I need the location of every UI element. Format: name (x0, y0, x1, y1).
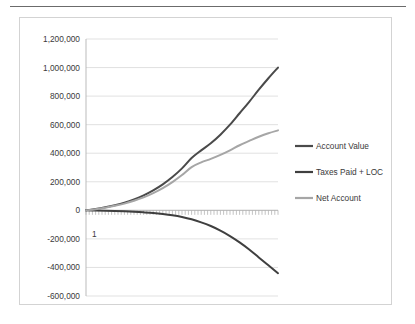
y-tick-label: -600,000 (47, 291, 80, 301)
y-tick-label: 1,200,000 (43, 34, 80, 44)
y-tick-label: 0 (75, 205, 80, 215)
y-tick-label: 400,000 (50, 148, 80, 158)
x-axis-tick-labels: 1 (92, 229, 97, 239)
y-tick-label: 600,000 (50, 120, 80, 130)
chart-page: 1,200,0001,000,000800,000600,000400,0002… (0, 0, 415, 324)
legend-label: Account Value (316, 141, 369, 151)
y-tick-label: 1,000,000 (43, 63, 80, 73)
x-tick-label: 1 (92, 229, 97, 239)
y-axis-tick-labels: 1,200,0001,000,000800,000600,000400,0002… (43, 34, 80, 301)
series-line (86, 68, 278, 211)
series-line (86, 210, 278, 273)
line-chart: 1,200,0001,000,000800,000600,000400,0002… (20, 18, 391, 304)
y-tick-label: 200,000 (50, 177, 80, 187)
series-line (86, 130, 278, 210)
legend-label: Taxes Paid + LOC (316, 167, 383, 177)
y-tick-label: -200,000 (47, 234, 80, 244)
legend-label: Net Account (316, 193, 361, 203)
chart-frame: 1,200,0001,000,000800,000600,000400,0002… (19, 17, 392, 305)
y-tick-label: 800,000 (50, 91, 80, 101)
top-horizontal-rule (10, 6, 406, 7)
chart-legend: Account ValueTaxes Paid + LOCNet Account (295, 141, 383, 203)
y-tick-label: -400,000 (47, 262, 80, 272)
data-series (86, 68, 278, 274)
